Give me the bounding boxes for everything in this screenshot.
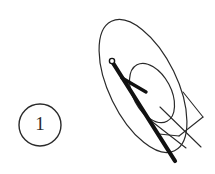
cross-diagonal-line	[160, 107, 201, 147]
kite-lower-right-line	[179, 117, 203, 136]
thin-line-group	[150, 92, 203, 148]
tail-stroke-line	[150, 120, 186, 148]
needle-tip-circle-icon	[109, 58, 114, 63]
callout-label: 1	[35, 113, 45, 134]
figure-vector-graphic: 1	[0, 0, 215, 174]
figure-canvas: 1	[0, 0, 215, 174]
outer-ellipse-shape	[81, 6, 205, 165]
